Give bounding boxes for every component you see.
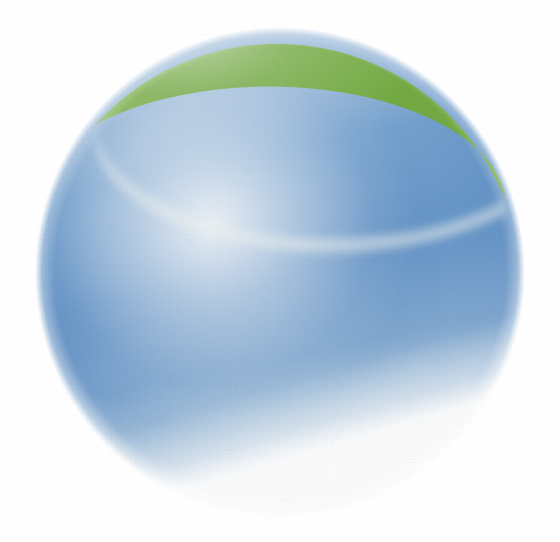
sphere-illustration [0, 0, 560, 542]
sphere-body [0, 0, 560, 542]
artboard-canvas [0, 0, 560, 542]
illustration-artboard [0, 0, 560, 542]
sphere-container [0, 0, 560, 542]
airbrush-grain [0, 0, 560, 542]
